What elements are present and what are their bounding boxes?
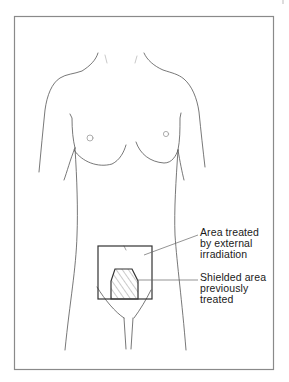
label-area-treated: Area treated by external irradiation [200,227,259,260]
shielded-area [111,269,138,299]
leader-line-area-treated [144,235,198,255]
body-outline [39,53,205,350]
figure-frame [15,17,274,370]
anatomical-diagram [0,0,289,382]
label-shielded-area: Shielded area previously treated [200,272,266,305]
